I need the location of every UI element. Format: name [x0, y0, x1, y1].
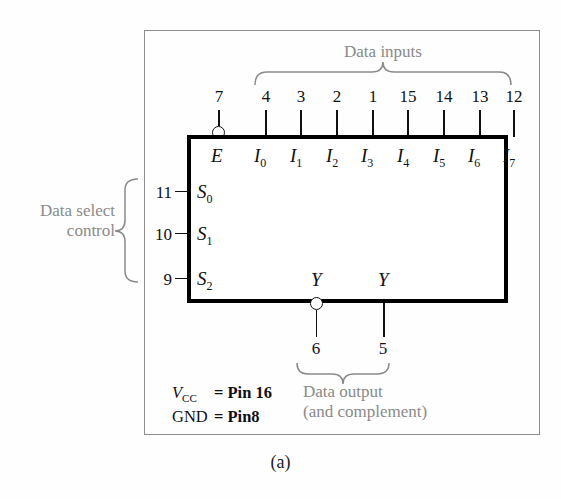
pin-number-i0: 4 [253, 88, 279, 105]
pin-stub-enable [218, 110, 220, 126]
signal-label-i1: I1 [290, 146, 302, 169]
pin-stub-i5 [443, 110, 445, 137]
data-select-line1: Data select [10, 201, 115, 221]
signal-label-s0: S0 [197, 182, 213, 205]
pin-number-i5: 14 [430, 88, 458, 105]
signal-label-i4: I4 [397, 146, 409, 169]
pin-stub-y-complement [316, 310, 318, 337]
pin-number-i4: 15 [394, 88, 422, 105]
data-output-brace [295, 362, 391, 380]
signal-label-i5: I5 [433, 146, 445, 169]
pin-stub-y [383, 303, 385, 337]
signal-label-i6: I6 [468, 146, 480, 169]
data-select-line2: control [10, 221, 115, 241]
pin-number-i7: 12 [500, 88, 528, 105]
pin-stub-s1 [175, 233, 189, 235]
data-output-line2: (and complement) [303, 402, 427, 422]
pin-number-enable: 7 [206, 88, 232, 105]
signal-label-i2: I2 [326, 146, 338, 169]
signal-label-y: Y [378, 270, 389, 289]
signal-label-y-complement: Y [311, 270, 322, 289]
pin-number-i1: 3 [288, 88, 314, 105]
pin-number-s0: 11 [146, 184, 172, 201]
pin-number-s2: 9 [146, 271, 172, 288]
data-inputs-brace [253, 68, 513, 86]
signal-label-i7: I7 [503, 146, 515, 169]
pin-stub-i0 [265, 110, 267, 137]
pin-number-s1: 10 [146, 226, 172, 243]
figure-caption: (a) [0, 452, 561, 473]
figure-canvas: Data inputs 7 4 3 2 1 15 14 13 12 E I0 I… [0, 0, 561, 499]
vcc-note: VCC= Pin 16 [172, 382, 272, 406]
signal-label-s2: S2 [197, 269, 213, 292]
signal-label-enable: E [211, 146, 223, 165]
data-output-label: Data output (and complement) [303, 382, 427, 421]
pin-number-i6: 13 [466, 88, 494, 105]
signal-label-s1: S1 [197, 224, 213, 247]
pin-stub-i7 [513, 110, 515, 137]
data-select-brace [122, 178, 140, 284]
data-select-control-label: Data select control [10, 201, 115, 240]
pin-stub-s0 [175, 191, 189, 193]
signal-label-i3: I3 [361, 146, 373, 169]
pin-number-i3: 1 [360, 88, 386, 105]
pin-stub-i2 [336, 110, 338, 137]
pin-stub-i6 [479, 110, 481, 137]
inversion-bubble-output [310, 297, 323, 310]
pin-stub-s2 [175, 278, 189, 280]
signal-label-i0: I0 [254, 146, 266, 169]
pin-number-y: 5 [370, 340, 396, 357]
multiplexer-chip-body [187, 135, 508, 303]
pin-stub-i3 [372, 110, 374, 137]
gnd-note: GND= Pin8 [172, 406, 272, 427]
pin-number-i2: 2 [324, 88, 350, 105]
pin-stub-i1 [300, 110, 302, 137]
data-output-line1: Data output [303, 382, 427, 402]
data-inputs-label: Data inputs [253, 42, 513, 62]
power-pin-notes: VCC= Pin 16 GND= Pin8 [172, 382, 272, 427]
pin-stub-i4 [407, 110, 409, 137]
pin-number-y-complement: 6 [303, 340, 329, 357]
